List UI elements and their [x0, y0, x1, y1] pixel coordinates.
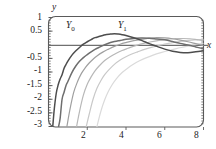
curve-label-y1-sub: 1: [123, 25, 127, 33]
x-tick-label: 8: [194, 131, 199, 141]
bessel-function-plot: 1 0.5 -0.5 -1 -1.5 -2 -2.5 -3 2 4 6 8 y …: [0, 0, 216, 149]
y-tick-label: -3: [6, 120, 42, 130]
y-tick-label: -2: [6, 93, 42, 103]
x-tick-label: 4: [119, 131, 124, 141]
y-tick-label: 1: [16, 13, 42, 23]
y-tick-label: 0.5: [10, 26, 42, 36]
x-axis-label: x: [207, 40, 211, 50]
x-tick-label: 2: [81, 131, 86, 141]
curve-label-y0-sub: 0: [71, 25, 75, 33]
y-tick-label: -1: [6, 66, 42, 76]
y-axis-label: y: [52, 2, 56, 12]
y-tick-label: -2.5: [4, 107, 42, 117]
y-tick-label: -1.5: [4, 80, 42, 90]
y-tick-label: -0.5: [6, 53, 42, 63]
x-tick-label: 6: [157, 131, 162, 141]
curve-label-y0: Y0: [66, 20, 75, 33]
curve-label-y1: Y1: [118, 20, 127, 33]
